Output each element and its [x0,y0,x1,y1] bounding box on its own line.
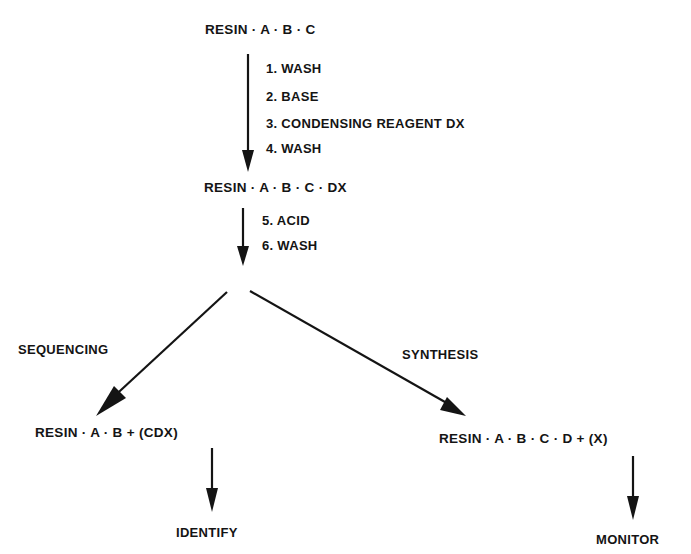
step-5: 5. ACID [262,213,310,229]
node-identify: IDENTIFY [176,525,238,541]
arrows-layer [0,0,691,554]
node-start: RESIN · A · B · C [205,22,316,38]
step-3: 3. CONDENSING REAGENT DX [266,116,465,132]
branch-label-synthesis: SYNTHESIS [402,347,478,363]
node-sequencing-product: RESIN · A · B + (CDX) [35,425,178,441]
arrow-down-icon [242,54,254,172]
step-1: 1. WASH [266,61,322,77]
arrow-down-icon [627,456,639,520]
diagram-canvas: RESIN · A · B · C 1. WASH 2. BASE 3. CON… [0,0,691,554]
step-4: 4. WASH [266,141,322,157]
arrow-diagonal-left-icon [96,292,227,416]
step-2: 2. BASE [266,89,319,105]
node-intermediate: RESIN · A · B · C · DX [204,180,347,196]
node-monitor: MONITOR [596,532,659,548]
branch-label-sequencing: SEQUENCING [18,342,108,358]
node-synthesis-product: RESIN · A · B · C · D + (X) [439,431,608,447]
arrow-down-icon [206,448,218,512]
arrow-down-icon [237,208,249,266]
step-6: 6. WASH [262,238,318,254]
